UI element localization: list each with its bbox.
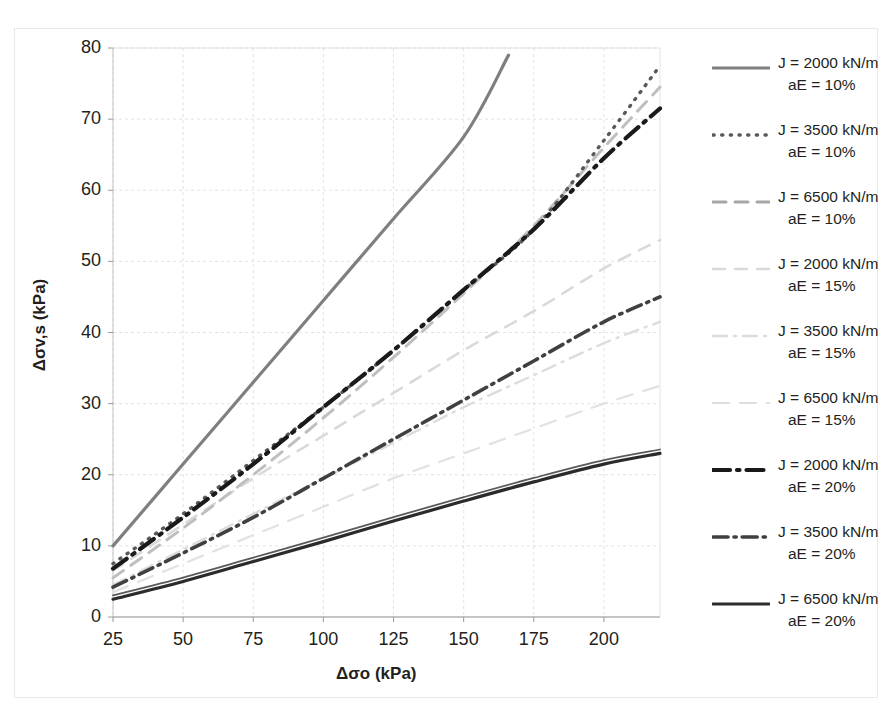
legend-label-line1: J = 2000 kN/m [778,255,878,272]
legend-label: J = 3500 kN/maE = 20% [778,521,878,565]
legend-item[interactable]: J = 6500 kN/maE = 10% [690,186,886,242]
legend-label: J = 2000 kN/maE = 15% [778,253,878,297]
y-tick-label: 40 [61,322,101,343]
legend-line-sample [712,531,770,543]
series-line [113,453,660,599]
series-line [113,55,509,546]
legend-label-line1: J = 6500 kN/m [778,389,878,406]
y-axis-title: Δσv,s (kPa) [30,250,50,400]
legend-item[interactable]: J = 3500 kN/maE = 20% [690,521,886,577]
series-line [113,240,660,571]
y-tick-label: 10 [61,535,101,556]
legend-label-line2: aE = 10% [778,74,878,96]
y-tick-label: 60 [61,179,101,200]
x-axis-title: Δσo (kPa) [336,664,417,684]
legend-item[interactable]: J = 6500 kN/maE = 15% [690,387,886,443]
x-tick-label: 150 [434,629,494,650]
legend-item[interactable]: J = 2000 kN/maE = 15% [690,253,886,309]
y-tick-label: 80 [61,37,101,58]
legend-label-line1: J = 6500 kN/m [778,590,878,607]
legend-label-line2: aE = 10% [778,141,878,163]
y-tick-label: 30 [61,393,101,414]
series-line [113,386,660,592]
x-tick-label: 50 [153,629,213,650]
legend-label-line2: aE = 20% [778,610,878,632]
legend-label-line1: J = 2000 kN/m [778,456,878,473]
legend-label: J = 2000 kN/maE = 20% [778,454,878,498]
legend-label: J = 6500 kN/maE = 15% [778,387,878,431]
legend-label-line1: J = 3500 kN/m [778,322,878,339]
chart-page: Δσo (kPa) Δσv,s (kPa) 010203040506070802… [0,0,896,727]
legend-label: J = 2000 kN/maE = 10% [778,52,878,96]
legend-line-sample [712,129,770,141]
y-tick-label: 70 [61,108,101,129]
legend-label: J = 3500 kN/maE = 10% [778,119,878,163]
legend-item[interactable]: J = 2000 kN/maE = 20% [690,454,886,510]
x-tick-label: 75 [223,629,283,650]
legend-label-line1: J = 6500 kN/m [778,188,878,205]
x-tick-label: 125 [364,629,424,650]
legend-label: J = 3500 kN/maE = 15% [778,320,878,364]
legend-label: J = 6500 kN/maE = 10% [778,186,878,230]
y-tick-label: 20 [61,464,101,485]
legend-item[interactable]: J = 6500 kN/maE = 20% [690,588,886,644]
x-tick-label: 100 [293,629,353,650]
y-tick-label: 0 [61,606,101,627]
legend-line-sample [712,196,770,208]
legend-line-sample [712,263,770,275]
legend-label-line2: aE = 20% [778,476,878,498]
x-tick-label: 175 [504,629,564,650]
legend-item[interactable]: J = 3500 kN/maE = 10% [690,119,886,175]
legend-label-line1: J = 2000 kN/m [778,54,878,71]
legend-line-sample [712,464,770,476]
legend-line-sample [712,397,770,409]
legend-label-line2: aE = 15% [778,409,878,431]
x-tick-label: 200 [574,629,634,650]
x-tick-label: 25 [83,629,143,650]
legend-item[interactable]: J = 2000 kN/maE = 10% [690,52,886,108]
gridlines [113,48,660,617]
legend-label-line1: J = 3500 kN/m [778,523,878,540]
legend-label-line2: aE = 20% [778,543,878,565]
legend-label-line2: aE = 10% [778,208,878,230]
series-lines [113,55,660,599]
legend-label-line2: aE = 15% [778,275,878,297]
y-tick-label: 50 [61,250,101,271]
legend-label: J = 6500 kN/maE = 20% [778,588,878,632]
legend-label-line1: J = 3500 kN/m [778,121,878,138]
legend-line-sample [712,62,770,74]
legend-line-sample [712,598,770,610]
legend-line-sample [712,330,770,342]
chart-legend: J = 2000 kN/maE = 10%J = 3500 kN/maE = 1… [690,52,886,662]
series-line [113,66,660,564]
legend-item[interactable]: J = 3500 kN/maE = 15% [690,320,886,376]
legend-label-line2: aE = 15% [778,342,878,364]
